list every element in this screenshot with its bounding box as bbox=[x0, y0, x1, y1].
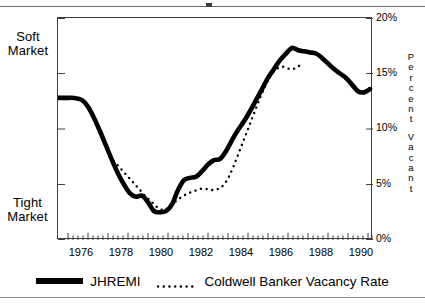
right-axis-ticks bbox=[366, 19, 373, 240]
title-descender-artifact bbox=[206, 3, 212, 7]
x-tick-label-1986: 1986 bbox=[261, 246, 301, 258]
tight-market-annotation: Tight Market bbox=[0, 196, 55, 224]
plot-area bbox=[57, 17, 372, 239]
soft-market-annotation: Soft Market bbox=[2, 30, 54, 58]
y-tick-label-20: 20% bbox=[376, 12, 397, 23]
x-tick-label-1982: 1982 bbox=[181, 246, 221, 258]
x-tick-label-1988: 1988 bbox=[301, 246, 341, 258]
legend-item-coldwell-banker[interactable]: Coldwell Banker Vacancy Rate bbox=[157, 274, 388, 289]
legend-label-jhremi: JHREMI bbox=[90, 274, 140, 289]
legend-item-jhremi[interactable]: JHREMI bbox=[36, 274, 140, 289]
x-tick-label-1990: 1990 bbox=[341, 246, 381, 258]
bottom-divider bbox=[0, 297, 425, 298]
x-tick-label-1984: 1984 bbox=[221, 246, 261, 258]
y-axis-title-char-6: t bbox=[404, 114, 418, 124]
y-tick-label-0: 0% bbox=[376, 233, 391, 244]
chart-legend: JHREMI Coldwell Banker Vacancy Rate bbox=[0, 270, 425, 292]
tight-market-line2: Market bbox=[0, 210, 55, 224]
x-tick-label-1980: 1980 bbox=[141, 246, 181, 258]
solid-line-swatch bbox=[36, 278, 83, 284]
y-tick-label-15: 15% bbox=[376, 67, 397, 78]
chart-canvas bbox=[58, 18, 373, 240]
y-axis-title: P e r c e n t V a c a n t bbox=[404, 52, 418, 194]
dotted-line-swatch-svg bbox=[157, 282, 197, 291]
y-tick-label-10: 10% bbox=[376, 122, 397, 133]
chart-page: Soft Market Tight Market 20% 15% 10% 5% … bbox=[0, 0, 425, 304]
left-axis-ticks bbox=[58, 19, 65, 240]
x-axis-ticks bbox=[68, 233, 373, 240]
y-axis-title-char-12: t bbox=[404, 184, 418, 194]
legend-label-coldwell-banker: Coldwell Banker Vacancy Rate bbox=[204, 274, 388, 289]
series-line-coldwell-banker bbox=[110, 64, 302, 211]
soft-market-line2: Market bbox=[2, 44, 54, 58]
top-divider bbox=[0, 6, 425, 7]
dotted-line-swatch bbox=[157, 277, 197, 286]
x-tick-label-1976: 1976 bbox=[61, 246, 101, 258]
x-tick-label-1978: 1978 bbox=[101, 246, 141, 258]
y-tick-label-5: 5% bbox=[376, 178, 391, 189]
series-line-jhremi bbox=[58, 48, 370, 212]
tight-market-line1: Tight bbox=[0, 196, 55, 210]
soft-market-line1: Soft bbox=[2, 30, 54, 44]
